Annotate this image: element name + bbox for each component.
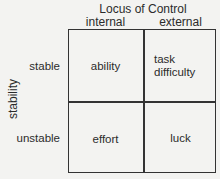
row-label-stable: stable [0, 60, 60, 73]
grid-horizontal-divider [68, 101, 216, 103]
stability-axis-label: stability [6, 79, 20, 119]
column-header-external: external [143, 15, 218, 29]
cell-task-difficulty-line-1: task [154, 53, 214, 66]
locus-of-control-title: Locus of Control [68, 2, 218, 16]
row-label-unstable: unstable [0, 132, 60, 145]
cell-task-difficulty: task difficulty [154, 53, 214, 79]
cell-luck: luck [143, 132, 218, 145]
cell-task-difficulty-line-2: difficulty [154, 66, 214, 79]
column-header-internal: internal [68, 15, 143, 29]
cell-ability: ability [68, 60, 143, 73]
cell-effort: effort [68, 133, 143, 146]
